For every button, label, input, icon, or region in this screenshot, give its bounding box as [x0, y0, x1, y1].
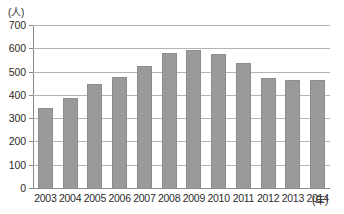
x-axis-tick-label: 2003	[34, 192, 56, 204]
bar	[87, 84, 102, 188]
x-axis-tick-label: 2011	[233, 192, 254, 204]
x-axis-tick-label: 2007	[133, 192, 155, 204]
bar	[162, 53, 177, 188]
y-axis-tick-label: 400	[9, 89, 26, 101]
bar	[211, 54, 226, 188]
bar	[38, 108, 53, 188]
x-axis-tick-label: 2004	[59, 192, 81, 204]
x-axis-tick-label: 2005	[84, 192, 106, 204]
y-axis-tick-label: 700	[9, 19, 26, 31]
y-axis-tick-label: 100	[9, 159, 26, 171]
bar	[236, 63, 251, 188]
plot-area	[33, 25, 330, 188]
x-axis-tick-label: 2013	[282, 192, 304, 204]
bar	[310, 80, 325, 189]
x-axis-tick-label: 2010	[208, 192, 230, 204]
bar	[186, 50, 201, 188]
y-axis-tick-label: 600	[9, 42, 26, 54]
bar	[261, 78, 276, 188]
gridline	[33, 188, 330, 189]
bar	[112, 77, 127, 188]
bars-group	[33, 25, 330, 188]
y-axis-tick-label: 500	[9, 66, 26, 78]
bar-chart: (人) 200320042005200620072008200920102011…	[0, 0, 344, 214]
x-axis-tick-label: 2008	[158, 192, 180, 204]
x-axis-unit-label: (年)	[312, 192, 328, 207]
x-axis-tick-label: 2006	[109, 192, 131, 204]
x-axis-tick-label: 2009	[183, 192, 205, 204]
y-axis-tick-label: 200	[9, 135, 26, 147]
bar	[137, 66, 152, 188]
y-axis-tick-label: 0	[20, 182, 26, 194]
y-axis-unit-label: (人)	[8, 4, 24, 19]
x-axis-tick-label: 2012	[257, 192, 279, 204]
bar	[63, 98, 78, 188]
bar	[285, 80, 300, 188]
y-axis-tick-label: 300	[9, 112, 26, 124]
x-axis-tick-labels: 2003200420052006200720082009201020112012…	[33, 192, 330, 208]
